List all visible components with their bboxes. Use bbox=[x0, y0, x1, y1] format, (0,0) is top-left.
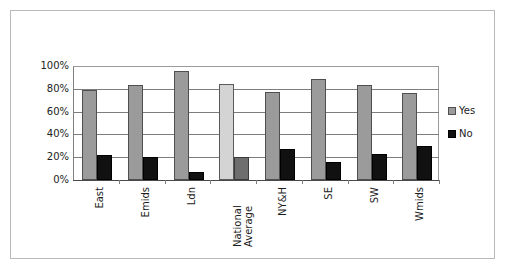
legend-item-yes[interactable]: Yes bbox=[448, 103, 496, 119]
category-label: Ldn bbox=[186, 187, 197, 205]
category-tick bbox=[119, 180, 120, 184]
bar-yes[interactable] bbox=[311, 79, 326, 180]
chart-frame: 100% 80% 60% 40% 20% 0% EastEmidsLdnNati… bbox=[10, 10, 495, 259]
category-tick bbox=[302, 180, 303, 184]
category-tick bbox=[348, 180, 349, 184]
category-tick bbox=[393, 180, 394, 184]
chart-legend: Yes No bbox=[448, 103, 496, 149]
legend-swatch-icon-yes bbox=[448, 107, 456, 115]
bar-group bbox=[348, 66, 394, 180]
legend-label-yes: Yes bbox=[459, 106, 475, 116]
y-tick-label-60: 60% bbox=[23, 107, 69, 117]
y-tick-label-80: 80% bbox=[23, 84, 69, 94]
bar-yes[interactable] bbox=[82, 90, 97, 180]
legend-swatch-icon-no bbox=[448, 130, 456, 138]
bar-group bbox=[73, 66, 119, 180]
bar-no[interactable] bbox=[189, 172, 204, 180]
bar-group bbox=[302, 66, 348, 180]
plot-area bbox=[73, 66, 439, 180]
y-tick-label-100: 100% bbox=[23, 61, 69, 71]
bar-yes[interactable] bbox=[265, 92, 280, 180]
bar-group bbox=[165, 66, 211, 180]
y-tick-label-40: 40% bbox=[23, 129, 69, 139]
category-label: Wmids bbox=[414, 187, 425, 221]
bar-yes[interactable] bbox=[128, 85, 143, 180]
category-label: Emids bbox=[140, 187, 151, 217]
category-label: SE bbox=[323, 187, 334, 200]
bar-no[interactable] bbox=[326, 162, 341, 180]
category-tick bbox=[210, 180, 211, 184]
category-label: East bbox=[94, 187, 105, 209]
y-tick-label-0: 0% bbox=[23, 175, 69, 185]
y-axis-tick-labels: 100% 80% 60% 40% 20% 0% bbox=[17, 66, 69, 180]
bar-group bbox=[256, 66, 302, 180]
bar-no[interactable] bbox=[280, 149, 295, 180]
bar-yes[interactable] bbox=[357, 85, 372, 180]
category-tick bbox=[439, 180, 440, 184]
bar-no[interactable] bbox=[97, 155, 112, 180]
bar-group bbox=[119, 66, 165, 180]
category-tick-marks bbox=[73, 180, 439, 184]
bar-yes[interactable] bbox=[174, 71, 189, 180]
bar-no[interactable] bbox=[372, 154, 387, 180]
bar-yes[interactable] bbox=[402, 93, 417, 180]
category-tick bbox=[165, 180, 166, 184]
legend-label-no: No bbox=[459, 129, 473, 139]
bar-group bbox=[393, 66, 439, 180]
bar-yes[interactable] bbox=[219, 84, 234, 180]
category-tick bbox=[256, 180, 257, 184]
bar-no[interactable] bbox=[143, 157, 158, 180]
y-tick-label-20: 20% bbox=[23, 152, 69, 162]
bar-no[interactable] bbox=[417, 146, 432, 180]
category-label: SW bbox=[369, 187, 380, 203]
legend-item-no[interactable]: No bbox=[448, 126, 496, 142]
bar-no[interactable] bbox=[234, 157, 249, 180]
bar-group bbox=[210, 66, 256, 180]
category-label: NationalAverage bbox=[232, 187, 254, 247]
category-axis-labels: EastEmidsLdnNationalAverageNY&HSESWWmids bbox=[73, 187, 439, 249]
category-label: NY&H bbox=[277, 187, 288, 216]
